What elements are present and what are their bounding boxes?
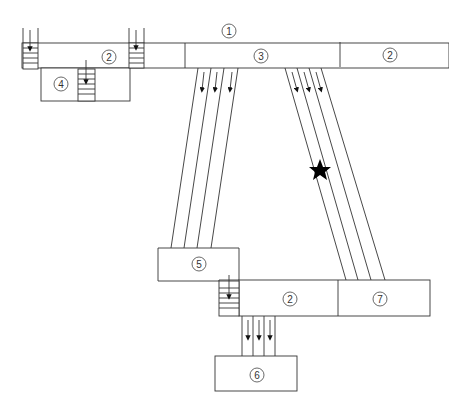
stairs-to-room-6	[242, 316, 275, 356]
label-3: 3	[254, 49, 268, 63]
stairs-top-mid	[129, 28, 144, 68]
svg-text:5: 5	[196, 259, 202, 270]
label-6: 6	[250, 368, 264, 382]
svg-text:2: 2	[106, 52, 112, 63]
label-5: 5	[192, 257, 206, 271]
label-1: 1	[222, 24, 236, 38]
stair-bundle-right	[285, 68, 385, 280]
label-2-left: 2	[102, 50, 116, 64]
floor-plan-diagram: 1 2 3 2 4 5 2 7 6	[0, 0, 449, 409]
svg-text:7: 7	[377, 294, 383, 305]
label-4: 4	[54, 77, 68, 91]
svg-text:2: 2	[287, 294, 293, 305]
stairs-top-left	[23, 28, 38, 69]
bottom-corridor	[239, 280, 430, 316]
label-2-bottom: 2	[283, 292, 297, 306]
svg-text:1: 1	[226, 26, 232, 37]
label-7: 7	[373, 292, 387, 306]
svg-text:6: 6	[254, 370, 260, 381]
label-2-right: 2	[383, 48, 397, 62]
svg-text:4: 4	[58, 79, 64, 90]
svg-text:2: 2	[387, 50, 393, 61]
stairs-room-5	[219, 275, 239, 316]
svg-text:3: 3	[258, 51, 264, 62]
stair-bundle-left	[171, 68, 238, 248]
